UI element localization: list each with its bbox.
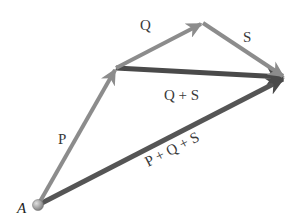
vector-q-s-arrow	[116, 68, 283, 77]
vector-q-arrow	[116, 24, 201, 68]
origin-point-icon	[33, 200, 44, 211]
label-q: Q	[140, 17, 151, 33]
label-q-plus-s: Q + S	[164, 87, 199, 103]
label-s: S	[243, 29, 251, 45]
vector-diagram: P Q S Q + S P + Q + S A	[0, 0, 300, 220]
label-p: P	[58, 131, 66, 147]
label-origin-a: A	[16, 200, 27, 216]
